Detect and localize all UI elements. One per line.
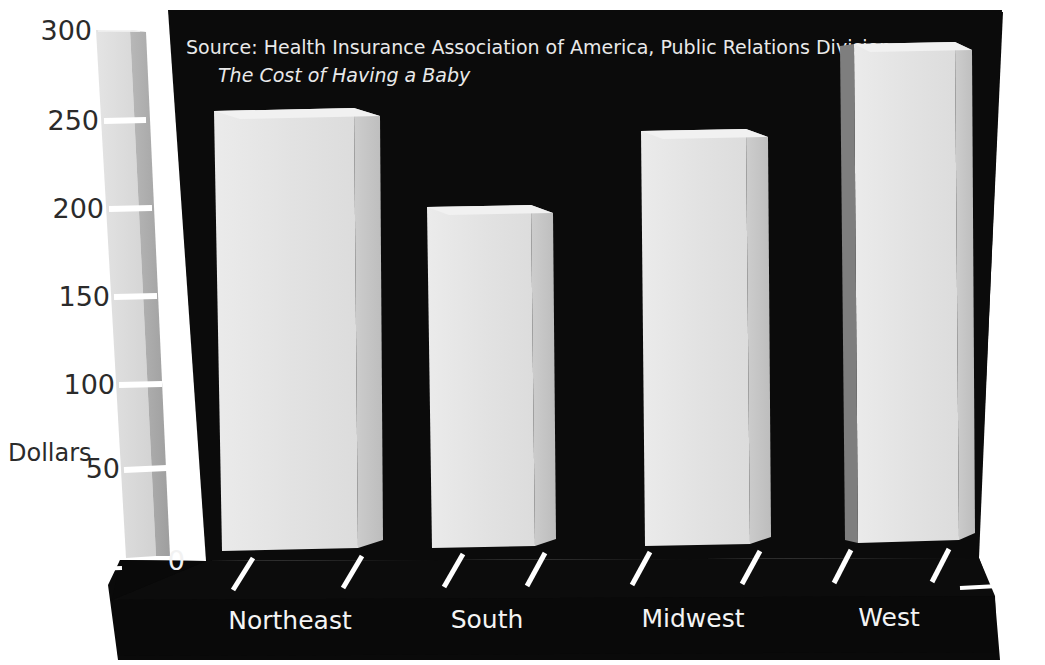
source-annotation-line1: Source: Health Insurance Association of … bbox=[186, 36, 897, 58]
y-tick-mark-200 bbox=[109, 208, 152, 209]
y-tick-label-0: 0 bbox=[168, 545, 185, 576]
y-tick-mark-250 bbox=[104, 120, 146, 121]
category-label-midwest: Midwest bbox=[641, 604, 744, 633]
floor-left-edge-tick bbox=[60, 568, 122, 570]
bar-northeast-front bbox=[214, 108, 358, 551]
bar-midwest-front bbox=[641, 129, 750, 546]
y-tick-mark-50 bbox=[124, 468, 167, 470]
y-tick-mark-150 bbox=[114, 296, 157, 297]
category-label-south: South bbox=[451, 605, 524, 634]
y-axis-title: Dollars bbox=[8, 439, 92, 467]
bar-west-front bbox=[854, 42, 959, 543]
bar-midwest[interactable] bbox=[641, 129, 771, 546]
y-tick-label-150: 150 bbox=[58, 281, 110, 312]
y-tick-label-200: 200 bbox=[52, 193, 104, 224]
source-annotation-line2: The Cost of Having a Baby bbox=[218, 64, 471, 86]
bar-northeast[interactable] bbox=[214, 108, 383, 551]
chart-container: Source: Health Insurance Association of … bbox=[0, 0, 1045, 665]
y-tick-label-250: 250 bbox=[47, 105, 99, 136]
bar-chart-3d: Source: Health Insurance Association of … bbox=[0, 0, 1045, 665]
plot-floor-top-face bbox=[112, 558, 995, 600]
category-label-northeast: Northeast bbox=[228, 606, 352, 635]
category-label-west: West bbox=[858, 603, 920, 632]
y-tick-mark-100 bbox=[119, 384, 162, 385]
bar-northeast-side bbox=[354, 108, 383, 548]
bar-midwest-side bbox=[746, 129, 771, 544]
y-tick-label-100: 100 bbox=[63, 369, 115, 400]
bar-south[interactable] bbox=[427, 205, 556, 548]
bar-west[interactable] bbox=[840, 42, 975, 543]
y-tick-label-300: 300 bbox=[40, 15, 92, 46]
bar-south-side bbox=[531, 205, 556, 546]
bar-south-front bbox=[427, 205, 535, 548]
